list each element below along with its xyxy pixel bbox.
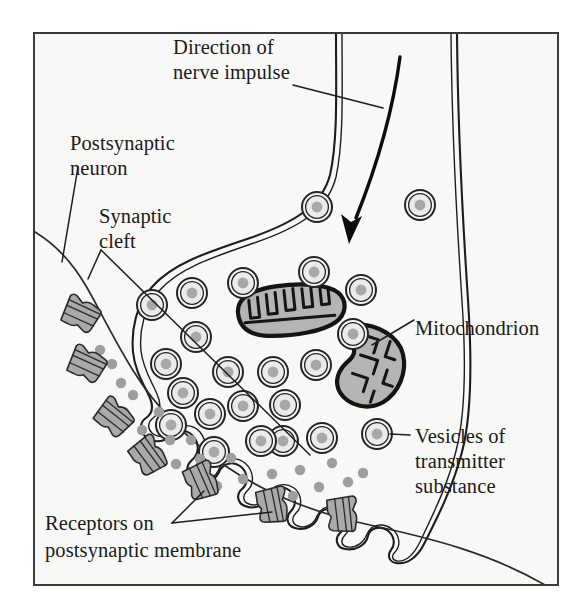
- receptor: [326, 496, 358, 534]
- vesicle: [228, 391, 258, 421]
- vesicle: [302, 192, 332, 222]
- vesicle: [177, 278, 207, 308]
- vesicle: [151, 349, 181, 379]
- vesicle: [307, 423, 337, 453]
- label-vesicles-line2: transmitter: [415, 450, 505, 472]
- label-postsynaptic-line1: Postsynaptic: [70, 132, 175, 155]
- leader-vesicles: [390, 434, 410, 435]
- synapse-diagram-svg: Direction of nerve impulse Postsynaptic …: [0, 0, 578, 611]
- label-vesicles-line1: Vesicles of: [415, 425, 506, 447]
- vesicle: [213, 357, 243, 387]
- label-vesicles-line3: substance: [415, 475, 496, 497]
- vesicle: [181, 322, 211, 352]
- vesicle: [195, 399, 225, 429]
- vesicle: [258, 357, 288, 387]
- label-direction-line1: Direction of: [173, 36, 274, 58]
- vesicle: [168, 378, 198, 408]
- vesicle: [338, 319, 368, 349]
- vesicle: [137, 290, 167, 320]
- label-cleft-line1: Synaptic: [99, 205, 172, 228]
- label-postsynaptic-line2: neuron: [70, 157, 128, 179]
- label-receptors-line2: postsynaptic membrane: [45, 539, 241, 562]
- vesicle: [362, 419, 392, 449]
- vesicle: [246, 426, 276, 456]
- vesicle: [299, 257, 329, 287]
- vesicle: [405, 190, 435, 220]
- label-direction-line2: nerve impulse: [173, 61, 290, 84]
- label-receptors-line1: Receptors on: [45, 512, 154, 535]
- vesicle: [346, 275, 376, 305]
- vesicle: [228, 268, 258, 298]
- vesicle: [301, 350, 331, 380]
- synapse-figure: Direction of nerve impulse Postsynaptic …: [0, 0, 578, 611]
- receptor: [255, 485, 290, 525]
- label-mitochondrion: Mitochondrion: [415, 317, 539, 339]
- label-cleft-line2: cleft: [99, 230, 136, 252]
- vesicle: [270, 390, 300, 420]
